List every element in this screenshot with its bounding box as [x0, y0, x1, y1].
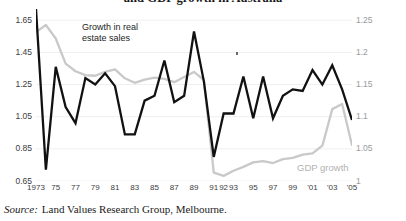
x-axis-tick-label: 99 [288, 183, 297, 192]
gridlines [36, 20, 352, 181]
x-axis-tick-label: 91 [209, 183, 218, 192]
right-axis-tick-label: 1.2 [356, 48, 386, 57]
source-text: Land Values Research Group, Melbourne. [42, 203, 227, 215]
x-axis-tick-label: 77 [71, 183, 80, 192]
x-axis-tick-label: 92 [219, 183, 228, 192]
annotation-real-estate-sales: Growth in real estate sales [82, 22, 138, 44]
left-axis-tick-label: 1.25 [2, 80, 32, 89]
left-axis-tick-label: 1.65 [2, 16, 32, 25]
left-axis-tick-label: 1.05 [2, 112, 32, 121]
x-axis-tick-label: '03 [327, 183, 337, 192]
source-label: Source: [4, 203, 38, 215]
right-axis-tick-label: 1 [356, 177, 386, 186]
x-axis-tick-label: 87 [170, 183, 179, 192]
x-axis-tick-label: 79 [91, 183, 100, 192]
x-axis-tick-label: 95 [249, 183, 258, 192]
x-axis-tick-label: '01 [307, 183, 317, 192]
left-axis-tick-label: 1.45 [2, 48, 32, 57]
gdp-growth-line [36, 25, 352, 176]
annotation-gdp-growth: GDP growth [297, 162, 349, 173]
x-axis-tick-label: '05 [347, 183, 357, 192]
source-caption: Source:Land Values Research Group, Melbo… [4, 203, 227, 215]
x-axis-tick-label: 93 [229, 183, 238, 192]
x-axis-tick-label: 85 [150, 183, 159, 192]
x-axis-tick-label: 75 [51, 183, 60, 192]
x-axis-tick-label: 89 [190, 183, 199, 192]
chart-title-clipped: and GDP growth in Australia [0, 0, 406, 9]
scan-speck [236, 52, 238, 55]
left-axis-tick-label: 0.85 [2, 144, 32, 153]
right-axis-tick-label: 1.05 [356, 144, 386, 153]
right-axis-tick-label: 1.15 [356, 80, 386, 89]
x-axis-tick-label: 81 [111, 183, 120, 192]
x-axis-tick-label: 83 [130, 183, 139, 192]
chart-figure: and GDP growth in Australia 0.650.851.05… [0, 0, 406, 221]
right-axis-tick-label: 1.25 [356, 16, 386, 25]
x-axis-tick-label: 97 [269, 183, 278, 192]
right-axis-tick-label: 1.1 [356, 112, 386, 121]
chart-title: and GDP growth in Australia [0, 0, 406, 6]
x-axis-tick-label: 1973 [27, 183, 45, 192]
